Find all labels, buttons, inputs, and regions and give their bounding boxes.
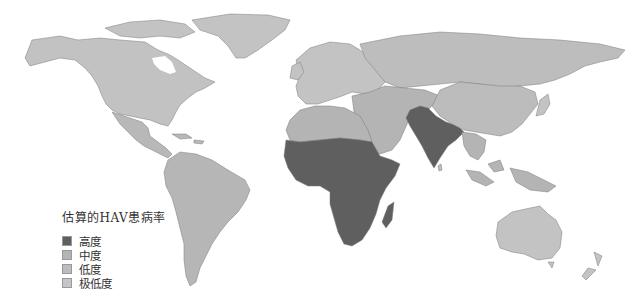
- region-sri-lanka: [438, 164, 442, 171]
- legend-swatch: [62, 278, 72, 288]
- region-tasmania: [548, 262, 554, 268]
- legend-title: 估算的HAV患病率: [62, 208, 166, 225]
- region-australia: [496, 206, 562, 260]
- region-north-america: [25, 36, 215, 126]
- legend-item-intermediate: 中度: [62, 248, 166, 261]
- region-southeast-asia: [462, 132, 486, 160]
- region-russia: [360, 32, 625, 88]
- region-madagascar: [382, 202, 394, 228]
- legend-item-low: 低度: [62, 262, 166, 275]
- legend-swatch: [62, 236, 72, 246]
- region-arctic-islands: [105, 20, 195, 38]
- legend-swatch: [62, 250, 72, 260]
- legend-item-high: 高度: [62, 234, 166, 247]
- region-greenland: [192, 14, 290, 58]
- region-sub-saharan-africa: [284, 138, 400, 246]
- legend-swatch: [62, 264, 72, 274]
- region-indonesia: [466, 160, 556, 192]
- region-japan: [536, 94, 550, 116]
- legend-label: 极低度: [79, 275, 112, 291]
- region-new-zealand: [582, 252, 602, 280]
- region-caribbean: [172, 134, 204, 144]
- legend: 估算的HAV患病率 高度 中度 低度 极低度: [62, 208, 166, 290]
- region-south-america: [164, 152, 250, 286]
- legend-item-very-low: 极低度: [62, 276, 166, 289]
